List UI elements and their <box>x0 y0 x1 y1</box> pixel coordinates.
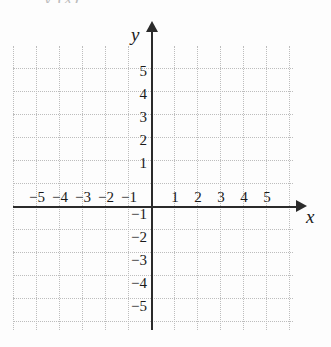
y-tick-label: 1 <box>125 156 147 171</box>
grid-line-horizontal <box>13 91 293 92</box>
x-tick-label: −2 <box>98 190 114 205</box>
x-tick-label: −1 <box>121 190 137 205</box>
grid-line-vertical <box>174 46 175 330</box>
grid-area <box>13 46 293 330</box>
grid-line-horizontal <box>13 160 293 161</box>
arrow-up-icon <box>146 21 158 32</box>
grid-line-vertical <box>59 46 60 330</box>
grid-line-horizontal <box>13 275 293 276</box>
grid-line-vertical <box>220 46 221 330</box>
x-tick-label: −4 <box>52 190 68 205</box>
grid-line-vertical <box>36 46 37 330</box>
grid-line-horizontal <box>13 252 293 253</box>
x-tick-label: 5 <box>263 190 271 205</box>
grid-line-horizontal <box>13 114 293 115</box>
grid-line-vertical <box>243 46 244 330</box>
x-tick-label: 4 <box>240 190 248 205</box>
grid-line-horizontal <box>13 321 293 322</box>
grid-line-vertical <box>289 46 290 330</box>
grid-line-horizontal <box>13 68 293 69</box>
x-axis-line <box>13 206 301 208</box>
x-axis-label: x <box>306 207 314 226</box>
y-tick-label: 4 <box>125 87 147 102</box>
grid-line-vertical <box>105 46 106 330</box>
x-tick-label: −3 <box>75 190 91 205</box>
x-tick-label: −5 <box>29 190 45 205</box>
y-tick-label: −3 <box>125 253 147 268</box>
clipped-text-fragment: y (x) <box>44 0 134 3</box>
y-tick-label: −2 <box>125 230 147 245</box>
y-tick-label: −5 <box>125 299 147 314</box>
grid-line-horizontal <box>13 137 293 138</box>
x-tick-label: 2 <box>194 190 202 205</box>
coordinate-grid-figure: y (x) x y −5−4−3−2−11234554321−1−2−3−4−5 <box>0 0 331 347</box>
y-axis-line <box>151 32 153 330</box>
grid-line-vertical <box>13 46 14 330</box>
grid-line-horizontal <box>13 229 293 230</box>
x-tick-label: 1 <box>171 190 179 205</box>
grid-line-horizontal <box>13 298 293 299</box>
grid-line-vertical <box>266 46 267 330</box>
grid-line-vertical <box>197 46 198 330</box>
y-tick-label: 3 <box>125 110 147 125</box>
grid-line-vertical <box>82 46 83 330</box>
y-axis-label: y <box>131 25 139 44</box>
y-tick-label: −1 <box>125 207 147 222</box>
y-tick-label: −4 <box>125 276 147 291</box>
y-tick-label: 5 <box>125 64 147 79</box>
y-tick-label: 2 <box>125 133 147 148</box>
x-tick-label: 3 <box>217 190 225 205</box>
grid-line-horizontal <box>13 183 293 184</box>
